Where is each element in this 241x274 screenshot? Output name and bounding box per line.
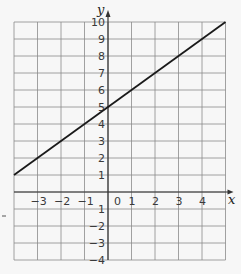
tick-labels: −3−2−101234123456789101−2−3−4: [31, 16, 207, 267]
y-tick-label: 9: [98, 33, 105, 46]
y-axis-label: y: [96, 2, 105, 17]
y-tick-label: 4: [98, 118, 105, 131]
y-tick-label: 10: [91, 16, 105, 29]
line-graph: −3−2−101234123456789101−2−3−4 x y: [0, 0, 241, 274]
y-tick-label: 8: [98, 50, 105, 63]
grid-lines: [14, 22, 226, 260]
y-tick-label: 6: [98, 84, 105, 97]
y-axis-arrow-icon: [106, 10, 111, 17]
data-series: [14, 22, 226, 175]
line-series: [14, 22, 226, 175]
x-tick-label: −3: [31, 195, 47, 208]
x-tick-label: 4: [199, 195, 206, 208]
x-axis-label: x: [228, 192, 236, 207]
y-tick-label: 1: [98, 203, 105, 216]
x-tick-label: 1: [129, 195, 136, 208]
y-tick-label: −4: [89, 254, 105, 267]
x-tick-label: 0: [114, 195, 121, 208]
x-tick-label: −2: [54, 195, 70, 208]
axes: [14, 10, 234, 260]
x-tick-label: 3: [176, 195, 183, 208]
y-tick-label: −2: [89, 220, 105, 233]
y-tick-label: 7: [98, 67, 105, 80]
y-tick-label: 1: [98, 169, 105, 182]
y-tick-label: −3: [89, 237, 105, 250]
y-tick-label: 3: [98, 135, 105, 148]
x-tick-label: 2: [152, 195, 159, 208]
y-tick-label: 2: [98, 152, 105, 165]
x-tick-label: −1: [78, 195, 94, 208]
